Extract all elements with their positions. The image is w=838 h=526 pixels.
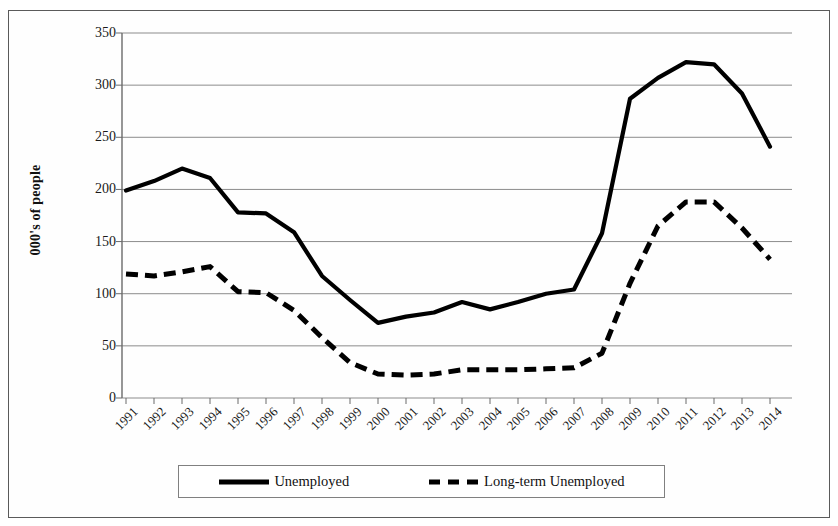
chart-figure: 000's of people 050100150200250300350 19… [0, 0, 838, 526]
x-tick-label: 2008 [582, 404, 617, 439]
legend-line-solid-icon [218, 476, 270, 488]
x-tick-label: 2004 [470, 404, 505, 439]
x-tick-label: 2001 [386, 404, 421, 439]
y-tick-label: 0 [70, 391, 116, 405]
x-tick-label: 2003 [442, 404, 477, 439]
y-tick-label: 50 [70, 339, 116, 353]
x-tick-label: 2012 [694, 404, 729, 439]
legend-entry-unemployed: Unemployed [218, 473, 349, 490]
legend-label-long-term-unemployed: Long-term Unemployed [484, 473, 625, 490]
x-tick-label: 2006 [526, 404, 561, 439]
series-line-unemployed [126, 62, 770, 323]
y-tick-label: 300 [70, 78, 116, 92]
x-tick-label: 1996 [246, 404, 281, 439]
x-tick-label: 2002 [414, 404, 449, 439]
x-tick-label: 2007 [554, 404, 589, 439]
y-tick-label: 350 [70, 26, 116, 40]
x-tick-label: 1998 [302, 404, 337, 439]
x-tick-label: 2014 [750, 404, 785, 439]
legend-line-dashed-icon [428, 476, 480, 488]
plot-area [122, 33, 792, 398]
x-tick-label: 2005 [498, 404, 533, 439]
y-tick-label: 250 [70, 130, 116, 144]
y-tick-label: 100 [70, 287, 116, 301]
x-tick-label: 2013 [722, 404, 757, 439]
y-tick-label: 150 [70, 235, 116, 249]
y-tick-label: 200 [70, 182, 116, 196]
chart-legend: Unemployed Long-term Unemployed [178, 465, 665, 498]
x-tick-label: 1997 [274, 404, 309, 439]
legend-entry-long-term-unemployed: Long-term Unemployed [428, 473, 625, 490]
x-axis-tick-labels: 1991199219931994199519961997199819992000… [122, 398, 792, 458]
legend-label-unemployed: Unemployed [274, 473, 349, 490]
series-line-long-term-unemployed [126, 202, 770, 375]
x-tick-label: 1995 [218, 404, 253, 439]
x-tick-label: 2011 [666, 404, 701, 439]
x-tick-label: 2010 [638, 404, 673, 439]
y-axis-tick-labels: 050100150200250300350 [66, 33, 116, 398]
x-tick-label: 1993 [162, 404, 197, 439]
x-tick-label: 1992 [134, 404, 169, 439]
data-series-layer [122, 33, 792, 398]
y-axis-title: 000's of people [28, 120, 50, 300]
x-tick-label: 1999 [330, 404, 365, 439]
x-tick-label: 2009 [610, 404, 645, 439]
x-tick-label: 1994 [190, 404, 225, 439]
x-tick-label: 2000 [358, 404, 393, 439]
